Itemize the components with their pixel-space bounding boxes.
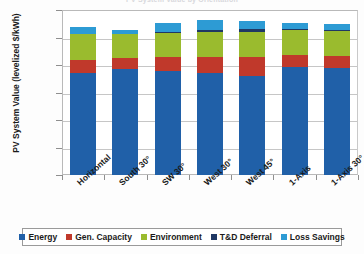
- bar-segment[interactable]: [70, 27, 96, 34]
- x-axis-tick-mark: [273, 175, 274, 180]
- bar-segment[interactable]: [239, 32, 265, 57]
- bar-segment[interactable]: [70, 34, 96, 59]
- bar-segment[interactable]: [282, 30, 308, 55]
- bar-segment[interactable]: [282, 67, 308, 175]
- bar-segment[interactable]: [155, 71, 181, 175]
- chart-legend: EnergyGen. CapacityEnvironmentT&D Deferr…: [22, 228, 342, 246]
- bar-segment[interactable]: [324, 56, 350, 68]
- x-axis-tick-mark: [147, 175, 148, 180]
- bar-segment[interactable]: [112, 58, 138, 70]
- chart-title: PV System Value by Orientation: [0, 0, 364, 4]
- bar-stack[interactable]: [112, 30, 138, 175]
- bar-segment[interactable]: [70, 73, 96, 175]
- bars-layer: [62, 10, 358, 175]
- y-axis-title: PV System Value (levelized $/kWh): [11, 0, 21, 167]
- x-axis-tick-mark: [104, 175, 105, 180]
- bar-stack[interactable]: [197, 20, 223, 175]
- bar-stack[interactable]: [239, 21, 265, 175]
- bar-segment[interactable]: [197, 32, 223, 57]
- bar-segment[interactable]: [239, 57, 265, 76]
- x-axis-tick-mark: [62, 175, 63, 180]
- bar-segment[interactable]: [282, 55, 308, 67]
- legend-item[interactable]: Gen. Capacity: [66, 232, 132, 242]
- legend-label: Environment: [150, 232, 202, 242]
- x-axis-tick-mark: [189, 175, 190, 180]
- bar-segment[interactable]: [155, 33, 181, 58]
- legend-swatch: [141, 234, 147, 240]
- bar-stack[interactable]: [282, 23, 308, 175]
- legend-item[interactable]: Energy: [19, 232, 57, 242]
- bar-segment[interactable]: [197, 20, 223, 29]
- bar-stack[interactable]: [155, 23, 181, 175]
- legend-swatch: [281, 234, 287, 240]
- legend-swatch: [19, 234, 25, 240]
- chart-container: PV System Value by Orientation PV System…: [0, 0, 364, 254]
- bar-segment[interactable]: [239, 21, 265, 29]
- bar-segment[interactable]: [324, 68, 350, 175]
- x-axis-tick-mark: [231, 175, 232, 180]
- bar-segment[interactable]: [112, 69, 138, 175]
- legend-item[interactable]: Environment: [141, 232, 202, 242]
- legend-label: T&D Deferral: [220, 232, 272, 242]
- bar-segment[interactable]: [155, 23, 181, 31]
- bar-segment[interactable]: [239, 76, 265, 175]
- bar-segment[interactable]: [197, 73, 223, 175]
- bar-stack[interactable]: [70, 27, 96, 175]
- bar-segment[interactable]: [70, 60, 96, 74]
- legend-swatch: [211, 234, 217, 240]
- bar-segment[interactable]: [324, 31, 350, 56]
- x-axis-tick-mark: [358, 175, 359, 180]
- x-axis-tick-mark: [316, 175, 317, 180]
- legend-item[interactable]: Loss Savings: [281, 232, 345, 242]
- legend-label: Energy: [28, 232, 57, 242]
- legend-item[interactable]: T&D Deferral: [211, 232, 272, 242]
- bar-segment[interactable]: [197, 57, 223, 73]
- bar-stack[interactable]: [324, 24, 350, 175]
- legend-label: Loss Savings: [290, 232, 345, 242]
- bar-segment[interactable]: [112, 34, 138, 58]
- bar-segment[interactable]: [155, 57, 181, 71]
- legend-label: Gen. Capacity: [75, 232, 132, 242]
- legend-swatch: [66, 234, 72, 240]
- bar-segment[interactable]: [324, 24, 350, 31]
